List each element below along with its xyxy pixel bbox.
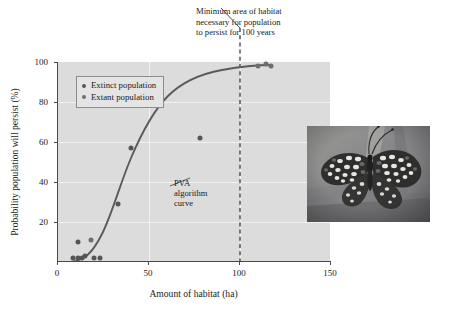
ytick-label-40: 40 — [39, 177, 48, 187]
xtick-0: 0 — [57, 261, 58, 265]
xtick-label-150: 150 — [323, 268, 337, 278]
y-axis-title: Probability population will persist (%) — [9, 88, 20, 236]
legend-label-extant: Extant population — [91, 92, 154, 104]
data-point-extant — [263, 62, 268, 67]
data-point-extinct — [83, 254, 88, 259]
legend-marker-extant-icon — [82, 95, 86, 99]
data-point-extant — [256, 64, 261, 69]
data-point-extinct — [116, 202, 121, 207]
ytick-label-100: 100 — [35, 57, 49, 67]
data-point-extinct — [97, 256, 102, 261]
xtick-label-0: 0 — [55, 268, 60, 278]
pva-curve-label: PVA algorithm curve — [174, 178, 207, 208]
y-axis-title-wrap: Probability population will persist (%) — [18, 62, 19, 262]
xtick-label-100: 100 — [232, 268, 246, 278]
minimum-habitat-annotation: Minimum area of habitat necessary for po… — [196, 6, 348, 38]
annotation-line-2: necessary for population — [196, 17, 348, 28]
data-point-extinct — [76, 240, 81, 245]
legend-marker-extinct-icon — [82, 84, 86, 88]
annotation-line-1: Minimum area of habitat — [196, 6, 348, 17]
x-axis-line: 0 50 100 150 — [57, 261, 331, 262]
xtick-150: 150 — [330, 261, 331, 265]
checkerspot-butterfly-photo — [307, 126, 430, 222]
xtick-100: 100 — [239, 261, 240, 265]
annotation-line-3: to persist for 100 years — [196, 27, 348, 38]
plot-area: 100 80 60 40 20 — [57, 62, 330, 262]
xtick-label-50: 50 — [144, 268, 153, 278]
curve-label-line-1: PVA — [174, 178, 207, 188]
data-point-extinct — [128, 146, 133, 151]
legend-item-extinct: Extinct population — [82, 80, 156, 92]
xtick-50: 50 — [148, 261, 149, 265]
data-point-extinct — [70, 256, 75, 261]
butterfly-photo-svg — [307, 126, 430, 222]
chart-legend: Extinct population Extant population — [76, 76, 164, 108]
data-point-extinct — [92, 256, 97, 261]
data-point-extinct — [198, 136, 203, 141]
x-axis-title: Amount of habitat (ha) — [57, 288, 330, 299]
legend-item-extant: Extant population — [82, 92, 156, 104]
pva-figure: Minimum area of habitat necessary for po… — [0, 0, 468, 315]
legend-label-extinct: Extinct population — [91, 80, 156, 92]
ytick-label-60: 60 — [39, 137, 48, 147]
curve-label-line-3: curve — [174, 198, 207, 208]
ytick-label-20: 20 — [39, 217, 48, 227]
data-point-extant — [88, 238, 93, 243]
ytick-label-80: 80 — [39, 97, 48, 107]
curve-label-line-2: algorithm — [174, 188, 207, 198]
data-point-extant — [269, 64, 274, 69]
